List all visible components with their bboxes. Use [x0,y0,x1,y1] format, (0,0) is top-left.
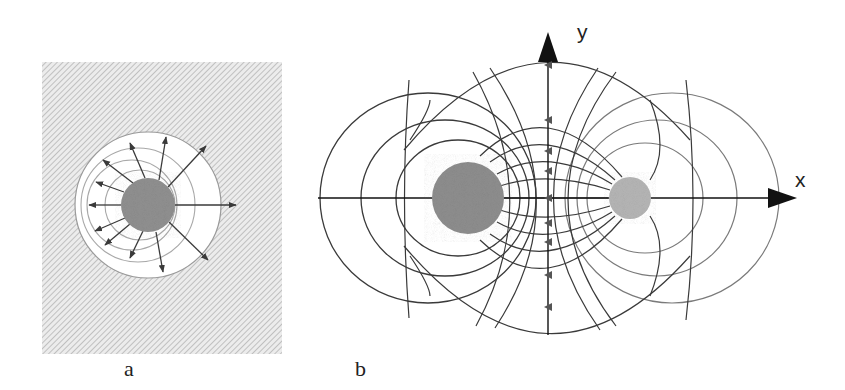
y-axis-label: y [577,20,588,44]
figure-canvas [0,0,845,390]
x-axis-arrowhead [768,188,797,208]
x-axis-label: x [795,168,806,192]
panel-b-label: b [355,356,366,382]
panel-a-label: a [124,356,134,382]
charge-small [609,177,651,219]
panel-a [42,62,282,354]
y-axis-arrowhead [538,32,558,62]
panel-b [318,32,797,335]
charge [121,178,175,232]
charge-large [432,162,504,234]
